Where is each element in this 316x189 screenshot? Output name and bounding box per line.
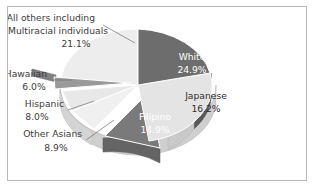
pie-chart: All others including Multiracial individ…	[8, 7, 306, 180]
label-japanese-name: Japanese	[184, 90, 227, 101]
label-other-asians-name: Other Asians	[23, 128, 82, 139]
label-filipino-name: Filipino	[139, 111, 171, 122]
label-hawaiian-name: Hawaiian	[8, 68, 47, 79]
label-filipino-value: 14.9%	[140, 124, 169, 135]
label-other-asians-value: 8.9%	[44, 142, 68, 153]
chart-frame: All others including Multiracial individ…	[7, 6, 307, 181]
label-white-name: White	[179, 51, 206, 62]
label-all-others-value: 21.1%	[61, 38, 90, 49]
label-all-others-line2: Multiracial individuals	[8, 25, 108, 36]
label-hawaiian-value: 6.0%	[22, 81, 46, 92]
label-japanese-value: 16.2%	[191, 103, 220, 114]
label-hispanic-value: 8.0%	[25, 111, 49, 122]
pie-chart-svg: All others including Multiracial individ…	[8, 7, 308, 182]
label-all-others-line1: All others including	[8, 12, 95, 23]
label-white-value: 24.9%	[177, 64, 206, 75]
label-hispanic-name: Hispanic	[25, 98, 64, 109]
